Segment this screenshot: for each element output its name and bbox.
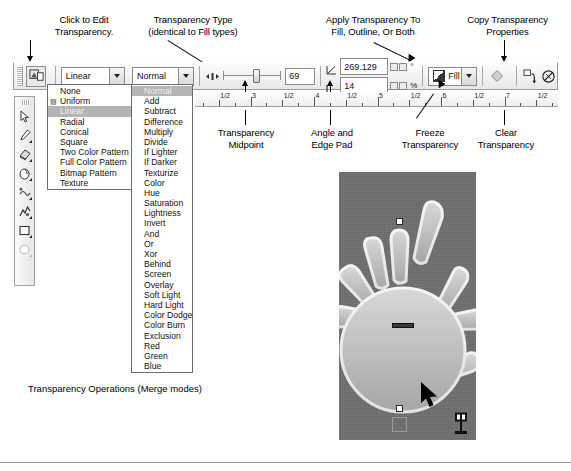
edge-pad-spin-down[interactable] [399, 82, 407, 90]
dropdown-option[interactable]: Green [132, 351, 192, 361]
dropdown-option-label: Xor [144, 249, 157, 259]
dropdown-option[interactable]: Lightness [132, 208, 192, 218]
dropdown-option[interactable]: And [132, 229, 192, 239]
dropdown-option[interactable]: Add [132, 96, 192, 106]
dropdown-option[interactable]: Overlay [132, 280, 192, 290]
edge-pad-spin-up[interactable] [390, 82, 398, 90]
gradient-node-handle[interactable] [396, 405, 403, 412]
copy-transparency-properties-button[interactable] [522, 66, 540, 87]
dropdown-option[interactable]: Conical [48, 127, 134, 137]
dropdown-option-label: Color [144, 178, 165, 188]
midpoint-value-field[interactable]: 69 [285, 68, 315, 85]
callout-clear-transparency: Clear Transparency [466, 127, 546, 151]
dropdown-option[interactable]: Radial [48, 117, 134, 127]
chevron-down-icon [466, 74, 472, 78]
smudge-tool-icon[interactable] [16, 165, 33, 182]
transparency-type-dropdown-button[interactable] [109, 68, 124, 85]
dropdown-option[interactable]: Divide [132, 137, 192, 147]
toolbar-drag-handle[interactable] [16, 66, 23, 86]
dropdown-option[interactable]: Or [132, 239, 192, 249]
add-node-tool-icon[interactable] [16, 184, 33, 201]
midpoint-slider[interactable] [223, 69, 281, 83]
ruler-tick [282, 100, 283, 106]
hand-sun-shape[interactable] [339, 172, 476, 440]
dropdown-option[interactable]: Soft Light [132, 290, 192, 300]
dropdown-option[interactable]: Multiply [132, 127, 192, 137]
transparency-type-combo[interactable]: Linear [61, 67, 125, 86]
shape-tool-icon[interactable] [16, 127, 33, 144]
clear-transparency-icon [541, 69, 556, 84]
merge-mode-dropdown-list[interactable]: NormalAddSubtractDifferenceMultiplyDivid… [131, 84, 193, 373]
angle-field[interactable]: 269.129 [340, 58, 388, 75]
angle-edge-pad-group: 269.129 ° 14 [326, 58, 417, 94]
dropdown-option[interactable]: Bitmap Pattern [48, 168, 134, 178]
edge-pad-spinner[interactable] [390, 82, 407, 90]
merge-mode-dropdown-button[interactable] [178, 68, 193, 85]
dropdown-option-label: Green [144, 351, 168, 361]
dropdown-option[interactable]: Xor [132, 249, 192, 259]
ruler-label: 3 [252, 92, 256, 99]
ellipse-tool-icon[interactable] [16, 241, 33, 258]
dropdown-option[interactable]: Blue [132, 361, 192, 371]
slider-thumb[interactable] [253, 69, 260, 83]
rectangle-tool-icon[interactable] [16, 222, 33, 239]
dropdown-option[interactable]: Behind [132, 259, 192, 269]
dropdown-option-label: Uniform [60, 96, 90, 106]
angle-spin-down[interactable] [399, 63, 407, 71]
dropdown-option-label: If Darker [144, 157, 177, 167]
dropdown-option[interactable]: Exclusion [132, 331, 192, 341]
dropdown-option[interactable]: Subtract [132, 106, 192, 116]
horizontal-ruler[interactable]: 1/231/241/251/261/271/2 [195, 92, 558, 107]
dropdown-option[interactable]: Square [48, 137, 134, 147]
angle-spin-up[interactable] [390, 63, 398, 71]
dropdown-option[interactable]: None [48, 86, 134, 96]
dropdown-option[interactable]: Full Color Pattern [48, 157, 134, 167]
dropdown-option-label: Hue [144, 188, 160, 198]
transparency-type-dropdown-list[interactable]: None▨UniformLinearRadialConicalSquareTwo… [47, 84, 135, 190]
dropdown-option[interactable]: Color Burn [132, 320, 192, 330]
eraser-tool-icon[interactable] [16, 146, 33, 163]
chevron-down-icon [183, 74, 189, 78]
gradient-midpoint-handle[interactable] [392, 323, 414, 328]
ruler-tick [520, 103, 521, 107]
pick-tool-icon[interactable] [16, 108, 33, 125]
apply-transparency-to-combo[interactable]: Fill [428, 67, 476, 86]
dropdown-option[interactable]: Two Color Pattern [48, 147, 134, 157]
edit-transparency-button[interactable] [26, 66, 46, 87]
dropdown-option[interactable]: Invert [132, 218, 192, 228]
dropdown-option[interactable]: Linear [48, 106, 134, 116]
clear-transparency-button[interactable] [539, 66, 557, 87]
merge-mode-combo[interactable]: Normal [132, 67, 194, 86]
chevron-down-icon [114, 74, 120, 78]
apply-to-dropdown-button[interactable] [461, 68, 476, 85]
dropdown-option-label: Invert [144, 218, 166, 228]
artwork-canvas[interactable] [339, 172, 476, 440]
dropdown-option[interactable]: Color Dodge [132, 310, 192, 320]
dropdown-option[interactable]: If Darker [132, 157, 192, 167]
dropdown-option-label: Normal [144, 86, 172, 96]
gradient-end-handle[interactable] [392, 417, 407, 432]
flyout-arrow-icon [29, 197, 32, 200]
dropdown-option[interactable]: Color [132, 178, 192, 188]
dropdown-option[interactable]: Saturation [132, 198, 192, 208]
palette-drag-handle[interactable] [21, 100, 29, 105]
roughen-tool-icon[interactable] [16, 203, 33, 220]
dropdown-option[interactable]: Texturize [132, 168, 192, 178]
freeze-transparency-button[interactable] [487, 66, 506, 87]
dropdown-option[interactable]: Normal [132, 86, 192, 96]
dropdown-option[interactable]: Screen [132, 269, 192, 279]
angle-spinner[interactable] [390, 63, 407, 71]
ruler-tick [362, 103, 363, 107]
dropdown-option[interactable]: If Lighter [132, 147, 192, 157]
gradient-start-handle[interactable] [396, 218, 403, 225]
dropdown-option[interactable]: Texture [48, 178, 134, 188]
toolbar-separator-1 [55, 66, 56, 86]
dropdown-option[interactable]: ▨Uniform [48, 96, 134, 106]
dropdown-option[interactable]: Hard Light [132, 300, 192, 310]
ruler-tick [203, 103, 204, 107]
dropdown-option[interactable]: Difference [132, 117, 192, 127]
dropdown-option[interactable]: Hue [132, 188, 192, 198]
ruler-label: 1/2 [411, 92, 421, 99]
ruler-tick [266, 103, 267, 107]
dropdown-option[interactable]: Red [132, 341, 192, 351]
